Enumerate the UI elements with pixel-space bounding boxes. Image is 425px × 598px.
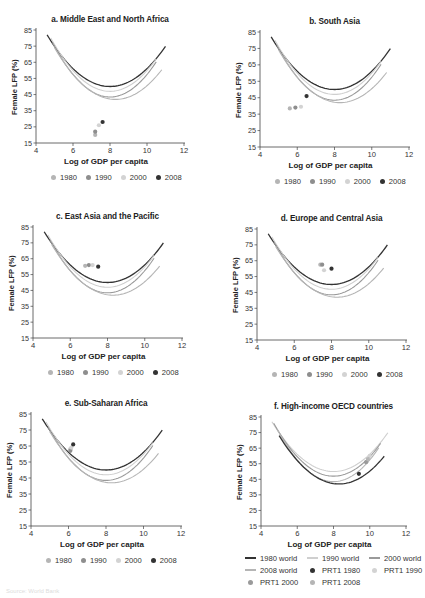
legend-marker-icon: [372, 568, 377, 573]
legend-item-2000-world: 2000 world: [369, 554, 425, 563]
x-tick-label: 8: [331, 529, 335, 538]
y-tick-label: 75: [249, 428, 257, 437]
legend-row: 2008 worldPRT1 1980PRT1 1990: [245, 564, 425, 576]
legend-row: 1980 world1990 world2000 world: [245, 552, 425, 564]
y-tick-label: 65: [249, 444, 257, 453]
chart-title: f. High-income OECD countries: [274, 402, 393, 411]
legend-label: 1990 world: [322, 554, 359, 563]
x-tick-label: 6: [295, 529, 299, 538]
x-axis-label: Log of GDP per capita: [288, 540, 372, 549]
legend-item-1990-world: 1990 world: [307, 554, 363, 563]
legend-label: PRT1 1980: [322, 566, 360, 575]
legend-item-PRT1-2008: PRT1 2008: [307, 578, 363, 587]
y-tick-label: 45: [249, 475, 257, 484]
x-tick-label: 10: [366, 529, 374, 538]
legend-row: PRT1 2000PRT1 2008: [245, 576, 425, 588]
legend-label: PRT1 2008: [322, 578, 360, 587]
legend-label: PRT1 2000: [260, 578, 298, 587]
y-axis-label: Female LFP (%): [235, 444, 244, 500]
x-tick-label: 4: [259, 529, 263, 538]
legend-label: 2008 world: [260, 566, 297, 575]
y-tick-label: 25: [249, 506, 257, 515]
legend-label: 2000 world: [384, 554, 421, 563]
legend-line-icon: [245, 557, 256, 558]
legend-item-PRT1-1990: PRT1 1990: [369, 566, 425, 575]
legend-line-icon: [369, 557, 380, 558]
legend-item-2008-world: 2008 world: [245, 566, 301, 575]
data-point-PRT1-2008: [366, 457, 370, 461]
legend-item-PRT1-2000: PRT1 2000: [245, 578, 301, 587]
y-tick-label: 15: [249, 522, 257, 531]
source-note: Source: World Bank: [6, 588, 59, 594]
y-tick-label: 35: [249, 490, 257, 499]
legend-item-PRT1-1980: PRT1 1980: [307, 566, 363, 575]
legend-line-icon: [307, 557, 318, 558]
y-tick-label: 55: [249, 459, 257, 468]
data-point-PRT1-1980: [357, 472, 361, 476]
legend-marker-icon: [248, 580, 253, 585]
legend-label: 1980 world: [260, 554, 297, 563]
legend-marker-icon: [310, 580, 315, 585]
legend-item-1980-world: 1980 world: [245, 554, 301, 563]
legend-label: PRT1 1990: [384, 566, 422, 575]
legend-marker-icon: [310, 568, 315, 573]
x-tick-label: 12: [402, 529, 410, 538]
y-tick-label: 85: [249, 413, 257, 422]
legend-line-icon: [245, 569, 256, 570]
chart-legend: 1980 world1990 world2000 world2008 world…: [245, 552, 425, 588]
